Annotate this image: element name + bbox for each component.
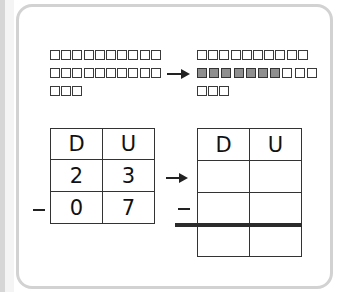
unit-block [84, 50, 94, 60]
cell-tens-minuend[interactable] [198, 161, 250, 193]
unit-block [128, 68, 138, 78]
arrow-icon [167, 73, 188, 75]
unit-block [72, 68, 82, 78]
unit-block [197, 50, 207, 60]
adjacent-panel-gap [5, 0, 14, 292]
shaded-unit-block [209, 68, 219, 78]
unit-block [61, 68, 71, 78]
cell-tens-subtrahend[interactable] [198, 193, 250, 225]
table-row-subtrahend: 0 7 [51, 192, 155, 224]
shaded-unit-block [258, 68, 268, 78]
block-row [50, 86, 84, 96]
header-tens: D [198, 129, 250, 161]
unit-block [219, 50, 229, 60]
unit-block [140, 50, 150, 60]
unit-block [72, 86, 82, 96]
result-line [175, 223, 302, 227]
unit-block [117, 68, 127, 78]
cell-tens-minuend: 2 [51, 160, 103, 192]
table-row-minuend: 2 3 [51, 160, 155, 192]
unit-block [197, 86, 207, 96]
table-row-minuend [198, 161, 302, 193]
unit-block [84, 68, 94, 78]
unit-block [117, 50, 127, 60]
cell-tens-subtrahend: 0 [51, 192, 103, 224]
minus-sign-after [178, 208, 190, 210]
unit-block [208, 86, 218, 96]
unit-block [219, 86, 229, 96]
table-row-subtrahend [198, 193, 302, 225]
unit-block [307, 68, 317, 78]
cell-units-minuend: 3 [103, 160, 155, 192]
block-row [50, 50, 162, 60]
unit-block [242, 50, 252, 60]
unit-block [282, 68, 292, 78]
cell-units-minuend[interactable] [250, 161, 302, 193]
unit-block [253, 50, 263, 60]
unit-block [275, 50, 285, 60]
unit-block [208, 50, 218, 60]
unit-block [231, 50, 241, 60]
place-value-table-after: D U [197, 128, 302, 257]
unit-block [287, 50, 297, 60]
unit-block [151, 50, 161, 60]
table-header-row: D U [51, 129, 155, 160]
block-row [197, 50, 309, 60]
cell-tens-result[interactable] [198, 225, 250, 257]
header-units: U [103, 129, 155, 160]
cell-units-subtrahend[interactable] [250, 193, 302, 225]
block-row [50, 68, 162, 78]
unit-block [50, 68, 60, 78]
cell-units-result[interactable] [250, 225, 302, 257]
block-row [197, 68, 319, 78]
place-value-table-before: D U 2 3 0 7 [50, 128, 155, 224]
shaded-unit-block [221, 68, 231, 78]
unit-block [61, 86, 71, 96]
unit-block [151, 68, 161, 78]
unit-block [50, 50, 60, 60]
cell-units-subtrahend: 7 [103, 192, 155, 224]
unit-block [264, 50, 274, 60]
unit-block [72, 50, 82, 60]
unit-block [298, 50, 308, 60]
unit-block [95, 50, 105, 60]
arrow-icon-tables [166, 177, 186, 179]
table-row-result [198, 225, 302, 257]
unit-block [106, 68, 116, 78]
header-tens: D [51, 129, 103, 160]
unit-block [61, 50, 71, 60]
shaded-unit-block [197, 68, 207, 78]
table-header-row: D U [198, 129, 302, 161]
header-units: U [250, 129, 302, 161]
shaded-unit-block [234, 68, 244, 78]
unit-block [106, 50, 116, 60]
minus-sign-before [33, 209, 45, 211]
block-row [197, 86, 231, 96]
shaded-unit-block [270, 68, 280, 78]
unit-block [50, 86, 60, 96]
shaded-unit-block [246, 68, 256, 78]
unit-block [140, 68, 150, 78]
unit-block [95, 68, 105, 78]
unit-block [128, 50, 138, 60]
unit-block [295, 68, 305, 78]
